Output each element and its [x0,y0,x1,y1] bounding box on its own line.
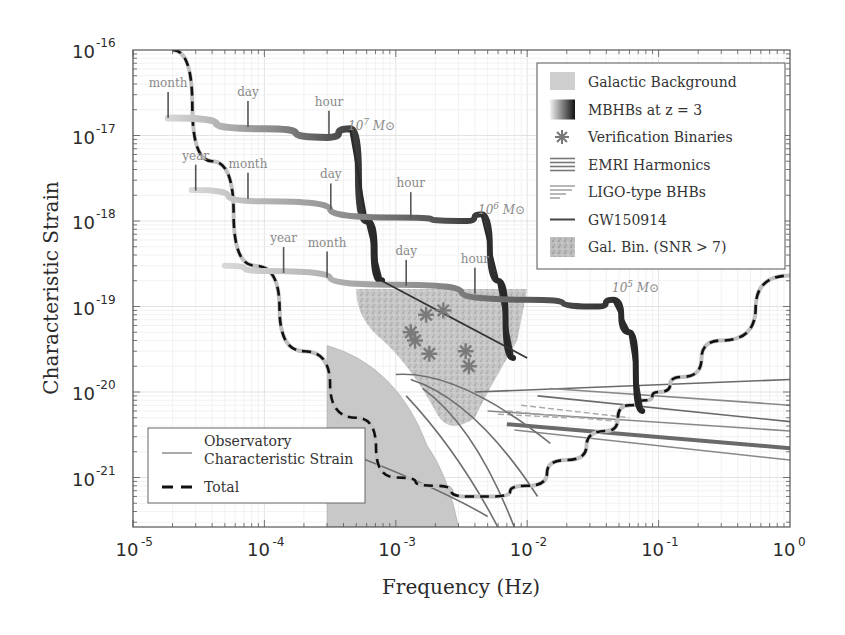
x-tick-label: 10 [378,539,401,560]
x-tick-label: 10 [116,539,139,560]
time-marker-label: day [395,244,417,258]
time-marker-label: year [269,231,297,245]
legend-label: Gal. Bin. (SNR > 7) [588,239,726,255]
time-marker-label: hour [397,176,426,190]
mbhb-merger-drop [350,129,381,281]
legend-label: EMRI Harmonics [588,157,711,173]
time-marker-label: hour [315,95,344,109]
y-tick-label: 10 [72,212,95,233]
time-marker-label: day [237,85,259,99]
y-tick-label: 10 [72,127,95,148]
y-tick-exponent: -18 [96,207,116,221]
x-tick-label: 10 [773,539,796,560]
time-marker-label: hour [461,252,490,266]
time-marker-label: day [320,167,342,181]
legend-lower-left: ObservatoryCharacteristic StrainTotal [148,428,365,503]
time-marker-label: month [308,236,347,250]
y-tick-exponent: -21 [96,464,116,478]
legend-label: Total [204,479,240,495]
y-tick-exponent: -16 [96,36,116,50]
time-marker-label: month [229,157,268,171]
mbhb-mass-label: 107 M⊙ [348,117,395,133]
time-marker-label: month [149,76,188,90]
verification-binary-star [418,307,434,323]
speckle-swatch-icon [550,237,575,257]
x-tick-exponent: 0 [798,535,806,549]
legend-label: Observatory [204,433,292,449]
x-tick-label: 10 [247,539,270,560]
x-tick-label: 10 [641,539,664,560]
y-axis-label: Characteristic Strain [39,181,63,394]
legend-label: Characteristic Strain [204,451,353,467]
x-tick-exponent: -3 [404,535,416,549]
legend-label: MBHBs at z = 3 [588,102,702,118]
verification-binary-star [435,302,451,318]
x-tick-labels: 10-510-410-310-210-1100 [116,535,806,560]
x-tick-exponent: -5 [141,535,153,549]
x-axis-label: Frequency (Hz) [382,575,540,599]
x-tick-label: 10 [510,539,533,560]
verification-binary-star [421,346,437,362]
emri-harmonic-line [550,388,790,405]
legend-label: GW150914 [588,212,667,228]
legend-upper-right: Galactic BackgroundMBHBs at z = 3Verific… [537,63,785,269]
galactic-background-swatch-icon [550,72,575,90]
y-tick-labels: 10-1610-1710-1810-1910-2010-21 [72,36,116,490]
legend-label: LIGO-type BHBs [588,184,706,200]
y-tick-label: 10 [72,298,95,319]
emri-harmonic-line [475,380,790,392]
chart-root: monthdayhour107 M⊙yearmonthdayhour106 M⊙… [0,0,845,635]
legend-label: Verification Binaries [587,129,733,145]
mbhb-mass-label: 105 M⊙ [612,279,659,295]
mbhb-mass-label: 106 M⊙ [478,201,525,217]
gw-sensitivity-chart: monthdayhour107 M⊙yearmonthdayhour106 M⊙… [0,0,845,635]
y-tick-exponent: -20 [96,378,116,392]
verification-binary-star [461,358,477,374]
legend-label: Galactic Background [588,74,737,90]
y-tick-exponent: -17 [96,122,116,136]
y-tick-label: 10 [72,41,95,62]
asterisk-icon [555,130,569,144]
time-marker-label: year [181,149,209,163]
y-tick-exponent: -19 [96,293,116,307]
x-tick-exponent: -1 [667,535,679,549]
verification-binary-star [407,333,423,349]
mbhb-gradient-swatch-icon [550,100,575,120]
legend-item: MBHBs at z = 3 [550,100,702,120]
verification-binary-star [458,343,474,359]
x-tick-exponent: -4 [272,535,284,549]
x-tick-exponent: -2 [535,535,547,549]
y-tick-label: 10 [72,383,95,404]
y-tick-label: 10 [72,469,95,490]
